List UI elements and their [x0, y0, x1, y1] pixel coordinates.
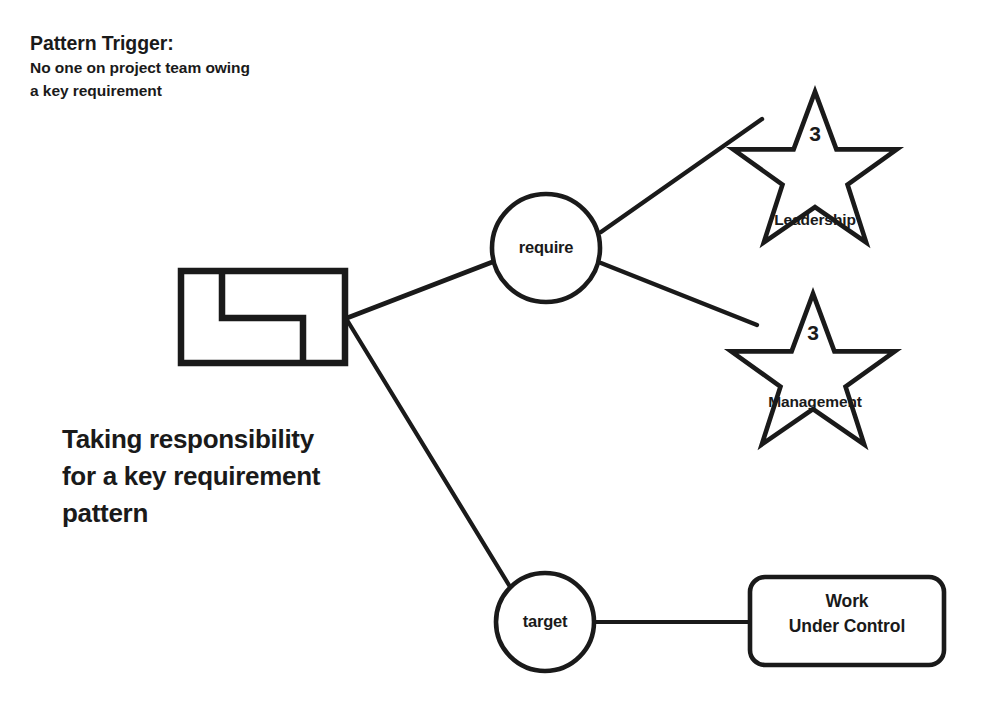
- require-node-label: require: [491, 238, 601, 257]
- pattern-caption-line-3: pattern: [62, 495, 462, 532]
- leadership-star-count: 3: [785, 122, 845, 146]
- target-node-label: target: [490, 612, 600, 631]
- pattern-caption-line-1: Taking responsibility: [62, 421, 462, 458]
- pattern-trigger-block: Pattern Trigger: No one on project team …: [30, 31, 450, 102]
- diagram-canvas: Pattern Trigger: No one on project team …: [0, 0, 982, 715]
- pattern-trigger-line-2: a key requirement: [30, 79, 450, 102]
- edge-pattern-to-require: [347, 261, 495, 318]
- pattern-trigger-line-1: No one on project team owing: [30, 56, 450, 79]
- edge-require-to-management: [601, 263, 757, 325]
- leadership-label: Leadership: [735, 211, 895, 229]
- pattern-caption: Taking responsibility for a key requirem…: [62, 421, 462, 532]
- pattern-caption-line-2: for a key requirement: [62, 458, 462, 495]
- management-label: Management: [730, 393, 900, 411]
- management-star-count: 3: [783, 321, 843, 345]
- work-under-control-line-2: Under Control: [750, 614, 944, 639]
- work-under-control-line-1: Work: [750, 589, 944, 614]
- management-star-icon[interactable]: [731, 294, 895, 445]
- pattern-trigger-title: Pattern Trigger:: [30, 31, 450, 56]
- pattern-icon[interactable]: [181, 271, 345, 363]
- work-under-control-label: Work Under Control: [750, 589, 944, 639]
